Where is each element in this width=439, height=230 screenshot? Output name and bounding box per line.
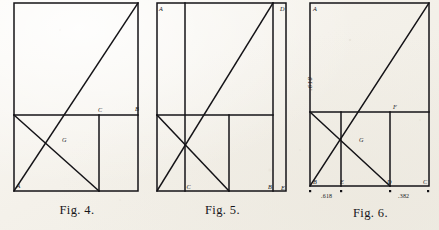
figure-fig5: A D C B E Fig. 5. bbox=[155, 0, 290, 230]
fig6-caption: Fig. 6. bbox=[308, 206, 433, 221]
fig6-point-G: G bbox=[359, 136, 364, 143]
fig4-drawing: A G C B bbox=[12, 0, 142, 196]
fig5-point-B: B bbox=[268, 183, 272, 190]
fig6-measure-dc: .382 bbox=[398, 193, 409, 199]
fig4-point-B: B bbox=[135, 105, 139, 112]
fig5-main-diagonal bbox=[157, 3, 273, 191]
fig6-point-E: E bbox=[339, 178, 344, 185]
fig6-point-D: D bbox=[386, 178, 392, 185]
fig6-point-C: C bbox=[423, 178, 428, 185]
fig4-point-A: A bbox=[16, 182, 21, 189]
fig4-caption: Fig. 4. bbox=[12, 203, 142, 218]
fig5-point-C: C bbox=[187, 183, 192, 190]
fig6-point-F: F bbox=[392, 103, 397, 110]
fig6-measure-be: .618 bbox=[321, 193, 332, 199]
fig4-point-C: C bbox=[98, 106, 103, 113]
fig6-height-measure: .618 bbox=[306, 72, 313, 96]
figure-fig6: A F G B E D C .618 .618 .382 Fig. 6. bbox=[308, 0, 433, 230]
fig5-cross-diagonal bbox=[157, 115, 229, 191]
fig5-point-D: D bbox=[279, 5, 285, 12]
fig5-outer-rect bbox=[157, 3, 286, 191]
fig6-baseline-ticks bbox=[309, 190, 429, 192]
fig5-point-E: E bbox=[280, 184, 285, 191]
fig5-drawing: A D C B E bbox=[155, 0, 290, 196]
fig6-cross-diagonal bbox=[310, 112, 390, 186]
fig6-main-diagonal bbox=[310, 3, 429, 186]
fig6-drawing: A F G B E D C bbox=[308, 0, 433, 192]
figure-plate: A G C B Fig. 4. bbox=[0, 0, 439, 230]
fig4-main-diagonal bbox=[14, 3, 138, 191]
fig5-point-A: A bbox=[158, 5, 163, 12]
figure-fig4: A G C B Fig. 4. bbox=[12, 0, 142, 230]
fig6-point-A: A bbox=[312, 5, 317, 12]
fig4-point-G: G bbox=[62, 136, 67, 143]
fig5-caption: Fig. 5. bbox=[155, 203, 290, 218]
fig6-point-B: B bbox=[313, 178, 317, 185]
